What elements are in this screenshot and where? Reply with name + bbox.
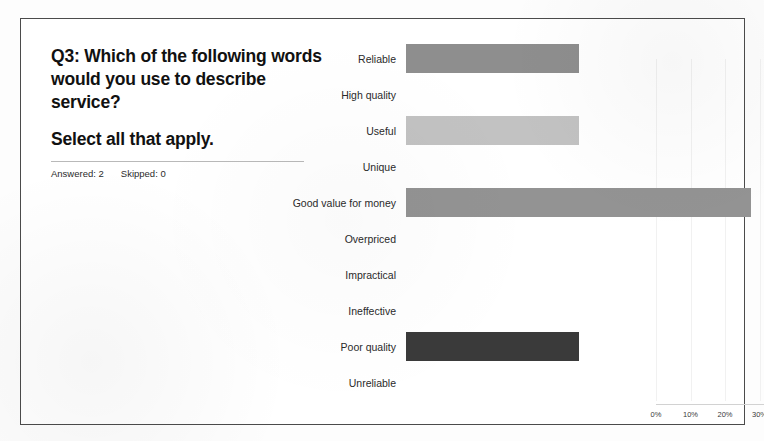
- panel-divider: [51, 161, 304, 162]
- bar-good-value-for-money[interactable]: [406, 188, 751, 217]
- bar-track: [406, 365, 751, 401]
- category-label: Impractical: [271, 270, 406, 281]
- category-label: Unreliable: [271, 378, 406, 389]
- x-tick-label: 20%: [717, 410, 732, 419]
- bar-track: [406, 185, 751, 221]
- chart-row: High quality: [271, 77, 761, 113]
- chart-row: Unreliable: [271, 365, 761, 401]
- bar-track: [406, 293, 751, 329]
- x-tick-label: 0%: [651, 410, 662, 419]
- bar-reliable[interactable]: [406, 44, 579, 73]
- answered-count: Answered: 2: [51, 168, 104, 179]
- bar-track: [406, 329, 751, 365]
- bar-useful[interactable]: [406, 116, 579, 145]
- chart-row: Reliable: [271, 41, 761, 77]
- bar-track: [406, 257, 751, 293]
- chart-row: Good value for money: [271, 185, 761, 221]
- category-label: Good value for money: [271, 198, 406, 209]
- category-label: Ineffective: [271, 306, 406, 317]
- chart-row: Useful: [271, 113, 761, 149]
- x-axis-ticks: 0%10%20%30%40%50%60%70%80%90%100%: [656, 410, 764, 424]
- chart-row: Unique: [271, 149, 761, 185]
- category-label: High quality: [271, 90, 406, 101]
- chart-row: Impractical: [271, 257, 761, 293]
- chart-row: Ineffective: [271, 293, 761, 329]
- bar-track: [406, 41, 751, 77]
- bar-track: [406, 113, 751, 149]
- category-label: Reliable: [271, 54, 406, 65]
- category-label: Overpriced: [271, 234, 406, 245]
- bar-track: [406, 221, 751, 257]
- survey-result-card: Q3: Which of the following words would y…: [20, 18, 745, 425]
- category-label: Poor quality: [271, 342, 406, 353]
- bar-poor-quality[interactable]: [406, 332, 579, 361]
- chart-rows: ReliableHigh qualityUsefulUniqueGood val…: [271, 41, 761, 401]
- x-tick-label: 10%: [683, 410, 698, 419]
- bar-chart: ReliableHigh qualityUsefulUniqueGood val…: [271, 41, 761, 441]
- category-label: Unique: [271, 162, 406, 173]
- chart-row: Overpriced: [271, 221, 761, 257]
- bar-track: [406, 77, 751, 113]
- skipped-count: Skipped: 0: [121, 168, 166, 179]
- x-axis-line: [656, 404, 764, 405]
- bar-track: [406, 149, 751, 185]
- category-label: Useful: [271, 126, 406, 137]
- chart-row: Poor quality: [271, 329, 761, 365]
- x-tick-label: 30%: [752, 410, 764, 419]
